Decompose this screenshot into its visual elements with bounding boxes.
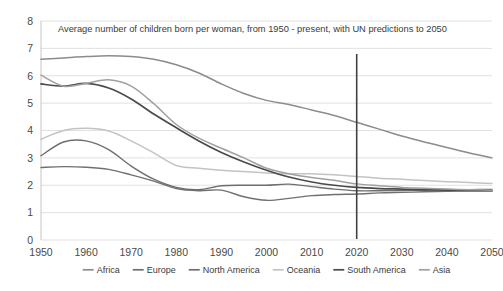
series-line-oceania [41, 128, 492, 183]
series-line-africa [41, 56, 492, 158]
y-axis-tick-3: 3 [27, 152, 33, 164]
fertility-rate-line-chart: 0123456781950196019701980199020002010202… [0, 0, 503, 291]
x-axis-tick-2050: 2050 [480, 246, 503, 258]
legend-label-north-america[interactable]: North America [203, 265, 260, 275]
series-line-south-america [41, 83, 492, 190]
gridlines-group: 012345678 [27, 15, 492, 246]
x-axis-tick-1970: 1970 [120, 246, 144, 258]
series-line-europe [41, 167, 492, 201]
y-axis-tick-7: 7 [27, 42, 33, 54]
legend-label-south-america[interactable]: South America [347, 265, 406, 275]
x-axis-group: 1950196019701980199020002010202020302040… [29, 246, 503, 258]
chart-legend: AfricaEuropeNorth AmericaOceaniaSouth Am… [83, 265, 451, 275]
x-axis-tick-2020: 2020 [345, 246, 369, 258]
series-line-north-america [41, 140, 492, 191]
legend-label-africa[interactable]: Africa [97, 265, 120, 275]
series-group [41, 56, 492, 201]
y-axis-tick-8: 8 [27, 15, 33, 27]
legend-label-oceania[interactable]: Oceania [287, 265, 321, 275]
x-axis-tick-2040: 2040 [435, 246, 459, 258]
y-axis-tick-4: 4 [27, 124, 33, 136]
chart-title: Average number of children born per woma… [58, 24, 447, 34]
y-axis-tick-2: 2 [27, 179, 33, 191]
x-axis-tick-1960: 1960 [74, 246, 98, 258]
x-axis-tick-2030: 2030 [390, 246, 414, 258]
y-axis-tick-5: 5 [27, 97, 33, 109]
x-axis-tick-2000: 2000 [255, 246, 279, 258]
chart-canvas: 0123456781950196019701980199020002010202… [0, 0, 503, 291]
legend-label-asia[interactable]: Asia [433, 265, 451, 275]
x-axis-tick-1990: 1990 [210, 246, 234, 258]
x-axis-tick-1950: 1950 [29, 246, 53, 258]
x-axis-tick-1980: 1980 [165, 246, 189, 258]
y-axis-tick-1: 1 [27, 206, 33, 218]
y-axis-tick-6: 6 [27, 70, 33, 82]
x-axis-tick-2010: 2010 [300, 246, 324, 258]
y-axis-tick-0: 0 [27, 234, 33, 246]
legend-label-europe[interactable]: Europe [147, 265, 176, 275]
